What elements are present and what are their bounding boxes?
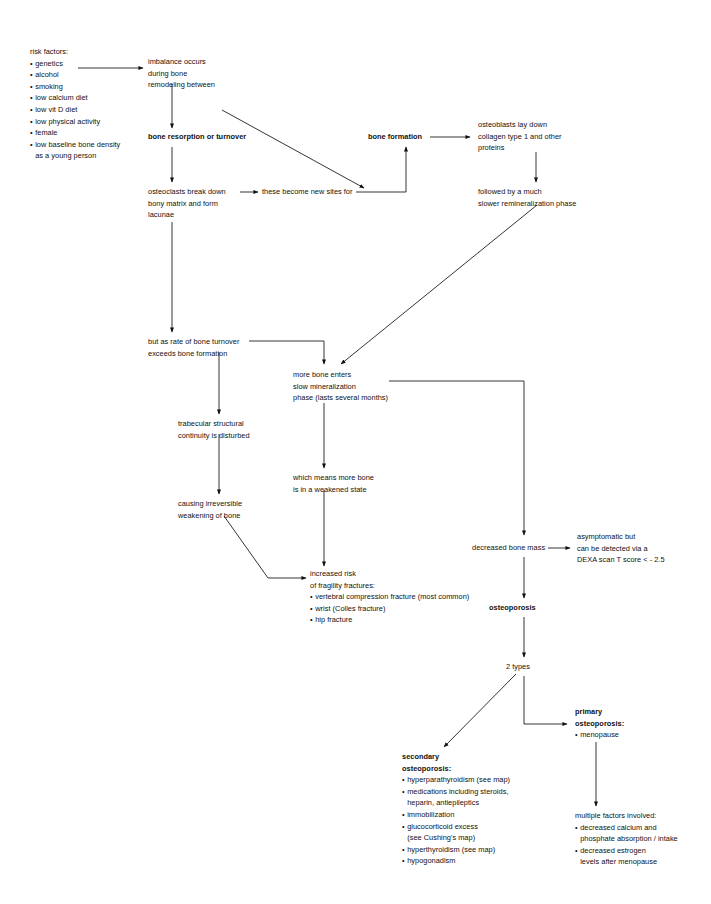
node-remineralization: followed by a much slower remineralizati… <box>478 186 576 209</box>
node-osteoblasts: osteoblasts lay down collagen type 1 and… <box>478 119 562 154</box>
secondary-item: immobilization <box>402 809 510 821</box>
secondary-item-continuation: heparin, antiepileptics <box>402 797 510 809</box>
risk-factor-item: genetics <box>30 58 120 70</box>
turnover-line-1: but as rate of bone turnover <box>148 336 239 348</box>
node-secondary-osteoporosis: secondary osteoporosis: hyperparathyroid… <box>402 751 510 867</box>
node-multiple-factors: multiple factors involved: decreased cal… <box>575 810 678 868</box>
asymptomatic-line-3: DEXA scan T score < - 2.5 <box>577 554 665 566</box>
secondary-item: glucocorticoid excess <box>402 821 510 833</box>
osteoblasts-line-3: proteins <box>478 142 562 154</box>
node-risk-factors: risk factors: genetics alcohol smoking l… <box>30 46 120 162</box>
fracture-item: hip fracture <box>310 614 469 626</box>
remineralization-line-1: followed by a much <box>478 186 576 198</box>
node-new-sites: these become new sites for <box>262 186 353 198</box>
node-two-types: 2 types <box>506 661 530 673</box>
multiple-factors-header: multiple factors involved: <box>575 810 678 822</box>
node-imbalance-occurs: imbalance occurs during bone remodeling … <box>148 56 215 91</box>
two-types-label: 2 types <box>506 661 530 673</box>
risk-factor-item: low calcium diet <box>30 92 120 104</box>
weakened-line-2: is in a weakened state <box>293 484 374 496</box>
new-sites-label: these become new sites for <box>262 186 353 198</box>
edge-twotypes-to-secondary <box>444 674 516 747</box>
decreased-bone-mass-label: decreased bone mass <box>472 542 545 554</box>
node-trabecular: trabecular structural continuity is dist… <box>178 418 250 441</box>
bone-formation-label: bone formation <box>368 131 422 143</box>
weakening-line-2: weakening of bone <box>178 510 242 522</box>
weakened-line-1: which means more bone <box>293 472 374 484</box>
remineralization-line-2: slower remineralization phase <box>478 198 576 210</box>
fracture-item: vertebral compression fracture (most com… <box>310 591 469 603</box>
primary-header-1: primary <box>575 706 624 718</box>
trabecular-line-1: trabecular structural <box>178 418 250 430</box>
primary-header-2: osteoporosis: <box>575 718 624 730</box>
risk-factor-item: low baseline bone density <box>30 139 120 151</box>
node-decreased-bone-mass: decreased bone mass <box>472 542 545 554</box>
multiple-factors-item: decreased estrogen <box>575 845 678 857</box>
concept-map-canvas: risk factors: genetics alcohol smoking l… <box>0 0 711 904</box>
edge-imbalance-to-formation <box>222 110 364 188</box>
bone-resorption-label: bone resorption or turnover <box>148 131 246 143</box>
edge-weakening-to-increasedrisk <box>224 516 306 578</box>
osteoclasts-line-2: bony matrix and form <box>148 198 226 210</box>
more-bone-line-2: slow mineralization <box>293 381 388 393</box>
edge-newsites-to-formation <box>356 147 406 192</box>
node-turnover-exceeds: but as rate of bone turnover exceeds bon… <box>148 336 239 359</box>
primary-item: menopause <box>575 729 624 741</box>
osteoporosis-label: osteoporosis <box>489 602 536 614</box>
secondary-item: hyperparathyroidism (see map) <box>402 774 510 786</box>
secondary-header-1: secondary <box>402 751 510 763</box>
node-weakened-state: which means more bone is in a weakened s… <box>293 472 374 495</box>
risk-factor-item: low vit D diet <box>30 104 120 116</box>
multiple-factors-item: decreased calcium and <box>575 822 678 834</box>
node-bone-formation: bone formation <box>368 131 422 143</box>
turnover-line-2: exceeds bone formation <box>148 348 239 360</box>
trabecular-line-2: continuity is disturbed <box>178 430 250 442</box>
risk-factor-item: alcohol <box>30 69 120 81</box>
secondary-item-continuation: (see Cushing's map) <box>402 832 510 844</box>
imbalance-line-1: imbalance occurs <box>148 56 215 68</box>
secondary-header-2: osteoporosis: <box>402 763 510 775</box>
node-causing-weakening: causing irreversible weakening of bone <box>178 498 242 521</box>
node-osteoporosis: osteoporosis <box>489 602 536 614</box>
osteoblasts-line-1: osteoblasts lay down <box>478 119 562 131</box>
edge-twotypes-to-primary <box>524 676 567 724</box>
more-bone-line-3: phase (lasts several months) <box>293 392 388 404</box>
increased-risk-line-1: increased risk <box>310 568 469 580</box>
node-more-bone-enters: more bone enters slow mineralization pha… <box>293 369 388 404</box>
node-bone-resorption: bone resorption or turnover <box>148 131 246 143</box>
risk-factor-item: smoking <box>30 81 120 93</box>
risk-factor-item: female <box>30 127 120 139</box>
imbalance-line-3: remodeling between <box>148 79 215 91</box>
risk-factors-header: risk factors: <box>30 46 120 58</box>
asymptomatic-line-1: asymptomatic but <box>577 531 665 543</box>
multiple-factors-continuation: phosphate absorption / intake <box>575 833 678 845</box>
fracture-item: wrist (Colles fracture) <box>310 603 469 615</box>
more-bone-line-1: more bone enters <box>293 369 388 381</box>
node-asymptomatic: asymptomatic but can be detected via a D… <box>577 531 665 566</box>
node-increased-risk: increased risk of fragility fractures: v… <box>310 568 469 626</box>
edge-remineralization-to-morebone <box>341 205 537 364</box>
edge-turnover-to-morebone <box>249 341 324 364</box>
increased-risk-line-2: of fragility fractures: <box>310 580 469 592</box>
secondary-item: hypogonadism <box>402 855 510 867</box>
risk-factor-item: low physical activity <box>30 116 120 128</box>
multiple-factors-continuation: levels after menopause <box>575 856 678 868</box>
edge-morebone-to-decreasedmass <box>389 381 524 535</box>
imbalance-line-2: during bone <box>148 68 215 80</box>
secondary-item: medications including steroids, <box>402 786 510 798</box>
asymptomatic-line-2: can be detected via a <box>577 543 665 555</box>
node-primary-osteoporosis: primary osteoporosis: menopause <box>575 706 624 741</box>
secondary-item: hyperthyroidism (see map) <box>402 844 510 856</box>
osteoclasts-line-3: lacunae <box>148 209 226 221</box>
weakening-line-1: causing irreversible <box>178 498 242 510</box>
osteoclasts-line-1: osteoclasts break down <box>148 186 226 198</box>
risk-factor-continuation: as a young person <box>30 150 120 162</box>
osteoblasts-line-2: collagen type 1 and other <box>478 131 562 143</box>
node-osteoclasts: osteoclasts break down bony matrix and f… <box>148 186 226 221</box>
